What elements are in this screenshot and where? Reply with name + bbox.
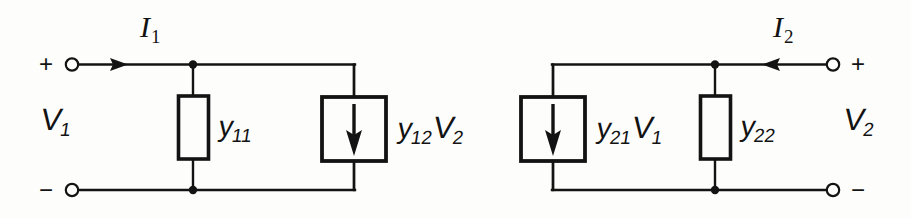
y22-subscript: 22 xyxy=(752,125,776,146)
right-top-node-dot xyxy=(711,60,719,68)
left-current-symbol: I xyxy=(140,10,150,43)
left-top-node-dot xyxy=(189,60,197,68)
left-plus-terminal xyxy=(66,58,78,70)
left-current-label: I1 xyxy=(140,12,161,46)
right-minus-sign: − xyxy=(851,178,865,202)
right-current-symbol: I xyxy=(773,10,783,43)
left-current-subscript: 1 xyxy=(151,26,161,47)
left-voltage-label: V1 xyxy=(38,104,75,139)
right-plus-sign: + xyxy=(851,52,865,76)
right-bottom-node-dot xyxy=(711,186,719,194)
right-voltage-label: V2 xyxy=(841,104,878,139)
circuit-diagram-canvas: + − I1 V1 y11 y12V2 + − I2 V2 y21V1 y22 xyxy=(0,0,911,218)
right-current-label: I2 xyxy=(773,12,794,46)
left-minus-terminal xyxy=(66,184,78,196)
left-plus-sign: + xyxy=(39,52,53,76)
y11-label: y11 xyxy=(216,112,255,145)
y22-body xyxy=(701,96,731,159)
right-plus-terminal xyxy=(827,58,839,70)
right-current-subscript: 2 xyxy=(784,26,794,47)
y11-subscript: 11 xyxy=(230,125,253,146)
y22-label: y22 xyxy=(738,112,779,145)
right-port-network xyxy=(521,58,839,196)
y21v1-label: y21V1 xyxy=(594,112,666,147)
y12v2-label: y12V2 xyxy=(395,112,467,147)
right-minus-terminal xyxy=(827,184,839,196)
y11-body xyxy=(179,96,209,159)
left-minus-sign: − xyxy=(39,178,53,202)
left-bottom-node-dot xyxy=(189,186,197,194)
